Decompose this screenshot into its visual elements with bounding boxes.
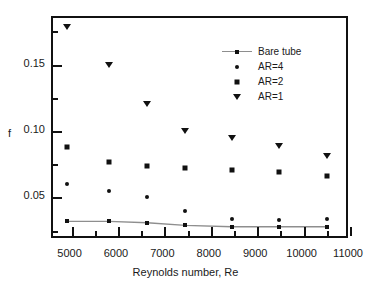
legend-label: AR=1 [258,92,283,102]
data-point [325,217,329,221]
data-point [183,209,187,213]
y-axis-tick-minor [53,231,58,233]
legend-item[interactable]: Bare tube [216,44,324,59]
data-point [64,144,69,149]
y-axis-tick-label: 0.15 [24,58,45,69]
data-point [229,167,234,172]
data-point [230,217,234,221]
data-point [324,174,329,179]
x-axis-tick-minor [188,231,190,236]
data-point [65,182,69,186]
data-point [145,221,149,225]
data-point [105,62,113,68]
x-axis-tick-minor [327,231,329,236]
chart-legend: Bare tubeAR=4AR=2AR=1 [216,44,324,104]
data-point [107,219,111,223]
data-point [106,159,111,164]
data-point [145,195,149,199]
legend-marker-icon [216,89,258,104]
legend-label: AR=2 [258,77,283,87]
data-point [183,223,187,227]
data-point [65,219,69,223]
x-axis-tick-minor [141,231,143,236]
legend-item[interactable]: AR=2 [216,74,324,89]
data-point [277,218,281,222]
y-axis-tick-minor [53,31,58,33]
data-point [181,128,189,134]
data-point [275,143,283,149]
x-axis-tick-major [118,227,120,236]
y-axis-tick-label: 0.05 [24,190,45,201]
data-point [228,135,236,141]
y-axis-tick-label: 0.10 [24,124,45,135]
legend-symbol [235,50,239,54]
legend-item[interactable]: AR=4 [216,59,324,74]
y-axis-title: f [8,128,11,139]
data-point [63,24,71,30]
legend-symbol [235,80,240,85]
y-axis-tick-major [53,131,62,133]
x-axis-tick-major [211,227,213,236]
x-axis-tick-major [257,227,259,236]
data-point [143,101,151,107]
x-axis-tick-label: 11000 [318,248,371,259]
data-point [107,189,111,193]
data-point [145,163,150,168]
legend-item[interactable]: AR=1 [216,89,324,104]
y-axis-tick-minor [53,98,58,100]
y-axis-tick-minor [53,164,58,166]
x-axis-tick-major [164,227,166,236]
legend-marker-icon [216,59,258,74]
legend-label: AR=4 [258,62,283,72]
data-point [325,225,329,229]
data-point [183,166,188,171]
chart-figure: f 0.050.100.15 5000600070008000900010000… [0,0,371,295]
data-point [277,225,281,229]
legend-symbol [233,94,241,100]
y-axis-tick-major [53,197,62,199]
x-axis-tick-major [304,227,306,236]
legend-marker-icon [216,74,258,89]
legend-marker-icon [216,44,258,59]
data-point [276,170,281,175]
x-axis-title: Reynolds number, Re [0,266,371,278]
y-axis-tick-major [53,65,62,67]
legend-symbol [235,65,239,69]
x-axis-tick-major [350,227,352,236]
x-axis-tick-minor [95,231,97,236]
data-point [230,225,234,229]
data-point [323,153,331,159]
x-axis-tick-minor [280,231,282,236]
legend-label: Bare tube [258,47,301,57]
x-axis-tick-major [72,227,74,236]
x-axis-tick-minor [234,231,236,236]
